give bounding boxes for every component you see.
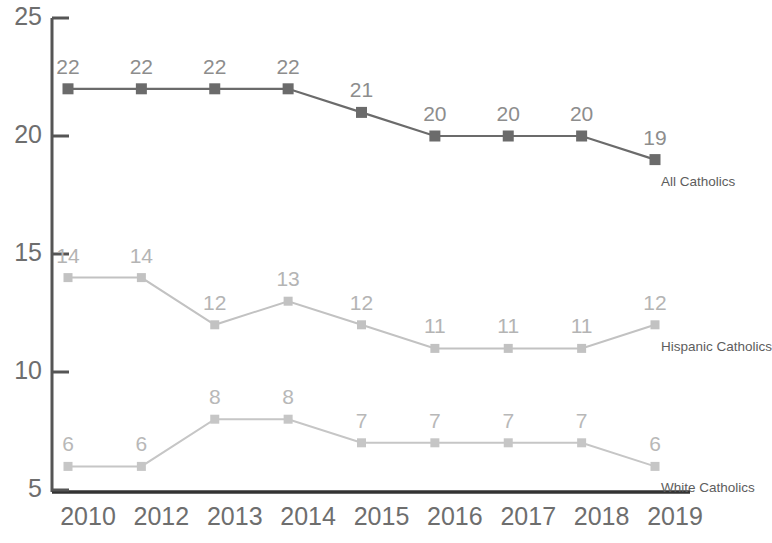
x-axis-tick-label: 2018 xyxy=(562,502,642,531)
x-axis-tick-label: 2010 xyxy=(48,502,128,531)
data-point-marker[interactable] xyxy=(137,462,146,471)
data-point-marker[interactable] xyxy=(284,297,293,306)
x-axis-tick-label: 2016 xyxy=(415,502,495,531)
data-point-label: 6 xyxy=(633,432,677,456)
data-point-marker[interactable] xyxy=(357,438,366,447)
x-axis-tick-label: 2014 xyxy=(268,502,348,531)
data-point-marker[interactable] xyxy=(64,462,73,471)
x-axis-tick-label: 2015 xyxy=(342,502,422,531)
data-point-marker[interactable] xyxy=(430,344,439,353)
data-point-label: 20 xyxy=(413,102,457,126)
y-axis-tick-label: 15 xyxy=(2,238,42,267)
y-axis-tick-label: 5 xyxy=(2,474,42,503)
data-point-label: 22 xyxy=(119,55,163,79)
data-point-marker[interactable] xyxy=(651,320,660,329)
y-axis-tick-label: 25 xyxy=(2,2,42,31)
data-point-label: 11 xyxy=(560,314,604,338)
data-point-marker[interactable] xyxy=(504,344,513,353)
data-point-marker[interactable] xyxy=(430,438,439,447)
y-axis-tick-label: 20 xyxy=(2,120,42,149)
data-point-label: 12 xyxy=(193,291,237,315)
data-point-marker[interactable] xyxy=(136,83,147,94)
data-point-marker[interactable] xyxy=(576,131,587,142)
data-point-marker[interactable] xyxy=(650,154,661,165)
data-point-label: 7 xyxy=(560,409,604,433)
data-point-marker[interactable] xyxy=(209,83,220,94)
data-point-marker[interactable] xyxy=(210,415,219,424)
data-point-marker[interactable] xyxy=(651,462,660,471)
data-point-marker[interactable] xyxy=(284,415,293,424)
series-label-white: White Catholics xyxy=(661,480,755,495)
data-point-marker[interactable] xyxy=(357,320,366,329)
data-point-label: 13 xyxy=(266,267,310,291)
series-label-hisp: Hispanic Catholics xyxy=(661,339,772,354)
data-point-marker[interactable] xyxy=(577,438,586,447)
data-point-label: 12 xyxy=(340,291,384,315)
data-point-marker[interactable] xyxy=(64,273,73,282)
data-point-label: 7 xyxy=(413,409,457,433)
data-point-label: 14 xyxy=(119,244,163,268)
data-point-label: 8 xyxy=(266,385,310,409)
x-axis-tick-label: 2012 xyxy=(121,502,201,531)
data-point-label: 20 xyxy=(560,102,604,126)
data-point-marker[interactable] xyxy=(577,344,586,353)
data-point-marker[interactable] xyxy=(137,273,146,282)
data-point-marker[interactable] xyxy=(503,131,514,142)
data-point-label: 22 xyxy=(266,55,310,79)
x-axis-tick-label: 2019 xyxy=(635,502,715,531)
data-point-label: 21 xyxy=(340,78,384,102)
x-axis-tick-label: 2017 xyxy=(488,502,568,531)
data-point-marker[interactable] xyxy=(356,107,367,118)
data-point-marker[interactable] xyxy=(63,83,74,94)
data-point-marker[interactable] xyxy=(504,438,513,447)
data-point-label: 11 xyxy=(413,314,457,338)
data-point-label: 19 xyxy=(633,126,677,150)
data-point-label: 11 xyxy=(486,314,530,338)
y-axis-tick-label: 10 xyxy=(2,356,42,385)
data-point-label: 6 xyxy=(46,432,90,456)
x-axis-tick-label: 2013 xyxy=(195,502,275,531)
data-point-label: 14 xyxy=(46,244,90,268)
data-point-label: 12 xyxy=(633,291,677,315)
data-point-marker[interactable] xyxy=(210,320,219,329)
data-point-label: 8 xyxy=(193,385,237,409)
series-label-all: All Catholics xyxy=(661,174,735,189)
data-point-marker[interactable] xyxy=(283,83,294,94)
data-point-label: 7 xyxy=(340,409,384,433)
data-point-marker[interactable] xyxy=(429,131,440,142)
data-point-label: 22 xyxy=(193,55,237,79)
data-point-label: 6 xyxy=(119,432,163,456)
data-point-label: 22 xyxy=(46,55,90,79)
data-point-label: 7 xyxy=(486,409,530,433)
data-point-label: 20 xyxy=(486,102,530,126)
